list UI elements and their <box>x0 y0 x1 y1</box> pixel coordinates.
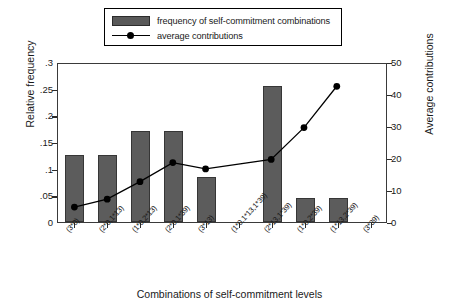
legend-label-contributions: average contributions <box>157 31 243 41</box>
x-axis-labels: (3*0)(2*0,1*13)(1*0,2*13)(2*0,1*39)(3*13… <box>57 228 387 284</box>
line-marker <box>301 124 308 131</box>
right-tick-label: 20 <box>391 154 402 164</box>
legend-item-frequency: frequency of self-commitment combination… <box>112 13 335 28</box>
right-tick-label: 30 <box>391 122 402 132</box>
line-marker <box>104 196 111 203</box>
line-marker <box>333 83 340 90</box>
legend-item-contributions: average contributions <box>112 28 335 43</box>
plot-inner <box>58 64 386 222</box>
line-path <box>74 86 336 207</box>
chart-legend: frequency of self-commitment combination… <box>104 8 342 46</box>
right-axis-title: Average contributions <box>423 4 435 164</box>
line-marker <box>71 204 78 211</box>
line-marker <box>169 159 176 166</box>
right-tick-mark <box>387 95 392 96</box>
line-marker <box>202 166 209 173</box>
right-tick-mark <box>387 127 392 128</box>
line-marker <box>137 178 144 185</box>
right-tick-mark <box>387 63 392 64</box>
x-axis-title: Combinations of self-commitment levels <box>0 288 459 300</box>
right-tick-label: 10 <box>391 186 402 196</box>
right-tick-mark <box>387 223 392 224</box>
right-tick-label: 50 <box>391 58 402 68</box>
right-tick-mark <box>387 159 392 160</box>
plot-area <box>57 63 387 223</box>
right-tick-mark <box>387 191 392 192</box>
line-marker-icon <box>112 31 150 41</box>
left-tick-label: .3 <box>45 58 53 68</box>
bar-swatch-icon <box>112 16 150 26</box>
left-axis-title: Relative frequency <box>24 4 36 164</box>
line-series-layer <box>58 64 386 223</box>
legend-label-frequency: frequency of self-commitment combination… <box>157 16 330 26</box>
right-tick-label: 40 <box>391 90 402 100</box>
line-marker <box>268 156 275 163</box>
left-tick-label: 0 <box>48 218 53 228</box>
